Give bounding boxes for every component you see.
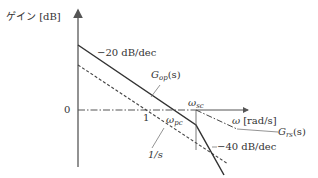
integrator-label: 1/s: [148, 149, 163, 160]
grs-leader: [237, 129, 278, 132]
grs-label: Grs(s): [278, 126, 306, 139]
one-label: 1: [143, 112, 149, 123]
wpc-label: ωpc: [166, 114, 183, 127]
bode-diagram: ゲイン [dB] −20 dB/dec 0 1 −40 dB/dec 1/s G…: [0, 0, 318, 178]
x-axis-label: ω[rad/s]: [232, 115, 277, 126]
grs-curve: [196, 110, 237, 129]
integrator-leader: [152, 128, 164, 148]
wsc-label: ωsc: [188, 97, 204, 110]
gop-leader: [151, 85, 160, 97]
zero-label: 0: [64, 104, 70, 115]
y-axis-label: ゲイン [dB]: [6, 11, 61, 22]
slope-40-label: −40 dB/dec: [217, 141, 277, 152]
slope-20-label: −20 dB/dec: [97, 47, 157, 58]
gop-label: Gop(s): [151, 69, 181, 82]
